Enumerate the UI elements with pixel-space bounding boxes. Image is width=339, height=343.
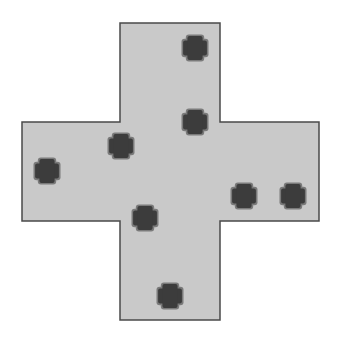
diagram-canvas [0,0,339,343]
cross-board-diagram [0,0,339,343]
cross-board [22,23,319,320]
cross-shape [22,23,319,320]
